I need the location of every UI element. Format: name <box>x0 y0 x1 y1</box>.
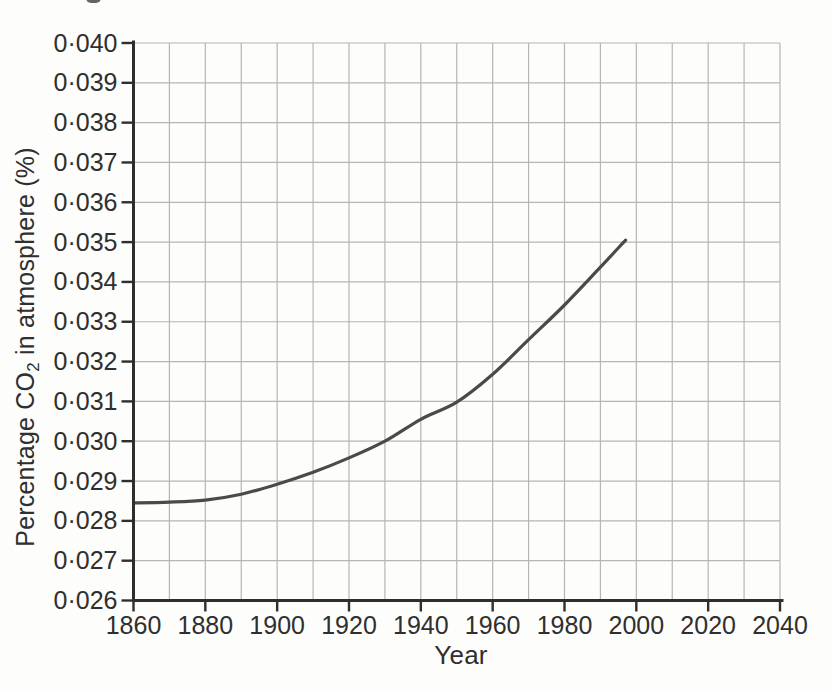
y-tick-label: 0·040 <box>54 29 118 57</box>
x-tick-label: 1960 <box>465 611 521 639</box>
y-axis-title-subscript: 2 <box>23 362 42 372</box>
x-tick-label: 2000 <box>609 611 665 639</box>
x-axis-title: Year <box>434 640 487 671</box>
y-tick-label: 0·028 <box>54 506 118 534</box>
y-tick-label: 0·032 <box>54 347 118 375</box>
y-tick-label: 0·030 <box>54 427 118 455</box>
y-tick-label: 0·034 <box>54 267 118 295</box>
y-axis-title-post: in atmosphere (%) <box>11 147 39 362</box>
y-axis-title: Percentage CO2 in atmosphere (%) <box>11 147 40 546</box>
y-tick-label: 0·027 <box>54 546 118 574</box>
x-tick-label: 1880 <box>178 611 234 639</box>
y-tick-label: 0·035 <box>54 228 118 256</box>
x-tick-label: 1860 <box>106 611 162 639</box>
x-tick-label: 1940 <box>393 611 449 639</box>
y-tick-label: 0·029 <box>54 467 118 495</box>
y-tick-label: 0·031 <box>54 387 118 415</box>
co2-line-chart: 0·0260·0270·0280·0290·0300·0310·0320·033… <box>0 0 832 691</box>
x-tick-label: 2040 <box>752 611 808 639</box>
x-tick-label: 2020 <box>680 611 736 639</box>
x-tick-label: 1920 <box>321 611 377 639</box>
y-axis-title-pre: Percentage CO <box>11 372 39 547</box>
x-tick-label: 1980 <box>537 611 593 639</box>
y-tick-label: 0·038 <box>54 108 118 136</box>
y-tick-label: 0·039 <box>54 68 118 96</box>
y-tick-label: 0·026 <box>54 586 118 614</box>
co2-atmosphere-figure: 0·0260·0270·0280·0290·0300·0310·0320·033… <box>0 0 832 691</box>
y-tick-label: 0·037 <box>54 148 118 176</box>
y-tick-label: 0·033 <box>54 307 118 335</box>
co2-curve <box>134 240 626 503</box>
x-tick-label: 1900 <box>249 611 305 639</box>
y-tick-label: 0·036 <box>54 188 118 216</box>
